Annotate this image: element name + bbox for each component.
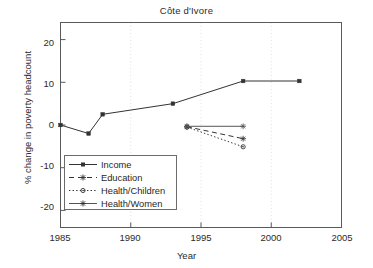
legend-label-health-children: Health/Children [98,186,165,196]
legend-swatch-income [68,159,98,170]
legend-swatch-health-children [68,185,98,196]
series-health-children [185,125,245,149]
legend-swatch-education [68,172,98,183]
series-layer [59,79,301,149]
series-income [59,79,301,135]
legend-item-health-children[interactable]: Health/Children [68,184,165,197]
chart-legend[interactable]: Income Education Health/Children [64,155,177,210]
legend-item-health-women[interactable]: Health/Women [68,197,162,210]
legend-label-income: Income [98,160,132,170]
plot-area [0,0,373,268]
legend-swatch-health-women [68,198,98,209]
legend-label-health-women: Health/Women [98,199,162,209]
chart-figure: Côte d'Ivore % change in poverty headcou… [0,0,373,268]
legend-item-income[interactable]: Income [68,158,132,171]
series-health-women [184,123,246,129]
legend-label-education: Education [98,173,142,183]
legend-item-education[interactable]: Education [68,171,142,184]
